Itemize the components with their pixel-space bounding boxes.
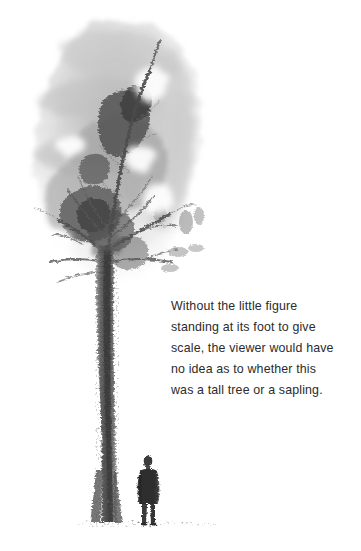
caption-line-1: Without the little figure	[171, 296, 356, 317]
tree-painting-artwork	[0, 0, 361, 551]
caption-line-2: standing at its foot to give	[171, 317, 356, 338]
caption-text-block: Without the little figure standing at it…	[171, 296, 356, 401]
caption-line-3: scale, the viewer would have	[171, 338, 356, 359]
caption-line-4: no idea as to whether this	[171, 359, 356, 380]
tree-painting-svg	[0, 0, 361, 551]
caption-line-5: was a tall tree or a sapling.	[171, 380, 356, 401]
illustration-page: Without the little figure standing at it…	[0, 0, 361, 551]
